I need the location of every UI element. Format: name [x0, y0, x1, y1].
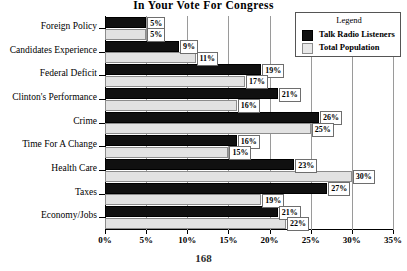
x-tick-mark [228, 230, 229, 234]
category-label: Economy/Jobs [41, 210, 97, 220]
x-tick-label: 10% [167, 235, 207, 245]
bar-talk-radio-listeners [105, 17, 146, 28]
bar-value-label: 30% [353, 170, 375, 184]
x-tick-mark [311, 230, 312, 234]
x-tick-label: 30% [332, 235, 372, 245]
bar-total-population [105, 194, 261, 205]
legend: Legend Talk Radio Listeners Total Popula… [295, 12, 401, 57]
bar-talk-radio-listeners [105, 206, 278, 217]
bar-total-population [105, 147, 228, 158]
category-label: Candidates Experience [10, 45, 97, 55]
legend-label-series-1: Total Population [319, 42, 379, 52]
bar-talk-radio-listeners [105, 183, 327, 194]
bar-talk-radio-listeners [105, 88, 278, 99]
bar-total-population [105, 76, 245, 87]
legend-title: Legend [296, 15, 402, 25]
category-label: Foreign Policy [41, 21, 97, 31]
x-tick-label: 0% [85, 235, 125, 245]
x-tick-mark [393, 230, 394, 234]
bar-total-population [105, 29, 146, 40]
bar-value-label: 15% [229, 146, 251, 160]
bar-talk-radio-listeners [105, 112, 319, 123]
bar-total-population [105, 123, 311, 134]
bar-value-label: 21% [279, 88, 301, 102]
bar-value-label: 16% [238, 99, 260, 113]
bar-total-population [105, 100, 237, 111]
bar-talk-radio-listeners [105, 41, 179, 52]
bar-value-label: 22% [287, 217, 309, 231]
bar-value-label: 17% [246, 75, 268, 89]
category-label: Clinton's Performance [12, 92, 97, 102]
bar-value-label: 9% [180, 40, 198, 54]
x-tick-mark [270, 230, 271, 234]
x-tick-mark [187, 230, 188, 234]
bar-talk-radio-listeners [105, 135, 237, 146]
x-tick-label: 20% [250, 235, 290, 245]
page-number: 168 [0, 252, 407, 264]
legend-swatch-light [302, 43, 313, 54]
category-label: Time For A Change [22, 139, 97, 149]
chart-title: In Your Vote For Congress [0, 0, 407, 11]
category-label: Taxes [75, 187, 97, 197]
legend-swatch-dark [302, 30, 313, 41]
legend-label-series-0: Talk Radio Listeners [319, 29, 395, 39]
bar-value-label: 11% [197, 52, 219, 66]
x-tick-mark [146, 230, 147, 234]
x-tick-mark [105, 230, 106, 234]
category-label: Federal Deficit [40, 68, 97, 78]
x-tick-label: 5% [126, 235, 166, 245]
bar-value-label: 25% [312, 123, 334, 137]
x-tick-label: 15% [208, 235, 248, 245]
category-label: Health Care [51, 163, 97, 173]
category-label: Crime [73, 116, 97, 126]
x-tick-mark [352, 230, 353, 234]
bar-talk-radio-listeners [105, 64, 261, 75]
bar-talk-radio-listeners [105, 159, 294, 170]
x-tick-label: 25% [291, 235, 331, 245]
bar-total-population [105, 218, 286, 229]
x-axis-line [105, 229, 394, 230]
bar-value-label: 5% [147, 28, 165, 42]
bar-value-label: 23% [295, 159, 317, 173]
bar-value-label: 27% [328, 182, 350, 196]
x-tick-label: 35% [373, 235, 407, 245]
chart-figure: In Your Vote For Congress 0%5%10%15%20%2… [0, 0, 407, 271]
